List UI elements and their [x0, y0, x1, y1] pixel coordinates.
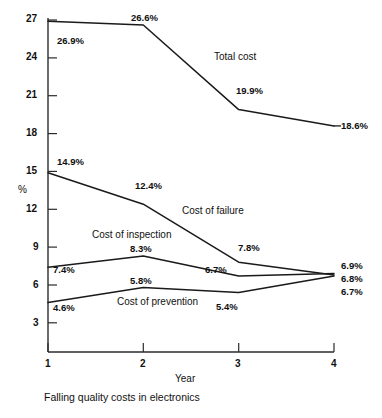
point-label-5-8: 5.8% [130, 276, 152, 286]
y-tick-label-18: 18 [26, 128, 37, 138]
point-label-18-6: 18.6% [341, 121, 368, 131]
x-axis-title: Year [175, 374, 195, 384]
point-label-6-7-year4: 6.7% [341, 287, 363, 297]
figure-caption: Falling quality costs in electronics [44, 392, 200, 403]
series-label-cost-of-failure: Cost of failure [182, 206, 244, 216]
point-label-7-8: 7.8% [238, 243, 260, 253]
series-label-total-cost: Total cost [214, 52, 256, 62]
x-tick-label-3: 3 [235, 359, 241, 369]
point-label-26-9: 26.9% [57, 36, 84, 46]
x-tick-label-1: 1 [45, 359, 51, 369]
y-tick-label-24: 24 [26, 52, 37, 62]
y-tick-label-12: 12 [26, 204, 37, 214]
point-label-14-9: 14.9% [57, 157, 84, 167]
x-tick-label-2: 2 [140, 359, 146, 369]
point-label-5-4: 5.4% [216, 302, 238, 312]
series-label-cost-of-prevention: Cost of prevention [117, 297, 198, 307]
y-tick-label-27: 27 [26, 14, 37, 24]
point-label-12-4: 12.4% [135, 181, 162, 191]
series-line-cost-of-inspection [48, 256, 334, 276]
chart-figure: 27 24 21 18 15 12 9 6 3 % 1 2 3 4 Year 2… [0, 0, 382, 418]
y-axis-ticks [48, 20, 57, 323]
point-label-6-9: 6.9% [341, 261, 363, 271]
point-label-19-9: 19.9% [236, 86, 263, 96]
y-tick-label-9: 9 [33, 242, 39, 252]
x-axis-ticks [48, 343, 334, 352]
y-axis-title: % [18, 185, 27, 195]
y-tick-label-3: 3 [33, 318, 39, 328]
series-line-total-cost [48, 21, 334, 126]
point-label-8-3: 8.3% [130, 244, 152, 254]
point-label-6-8: 6.8% [341, 274, 363, 284]
y-tick-label-6: 6 [33, 280, 39, 290]
x-tick-label-4: 4 [331, 359, 337, 369]
series-line-cost-of-failure [48, 173, 334, 275]
y-tick-label-21: 21 [26, 90, 37, 100]
point-label-6-7-year3: 6.7% [205, 265, 227, 275]
y-tick-label-15: 15 [26, 166, 37, 176]
point-label-26-6: 26.6% [131, 13, 158, 23]
point-label-4-6: 4.6% [53, 303, 75, 313]
point-label-7-4: 7.4% [53, 265, 75, 275]
series-label-cost-of-inspection: Cost of inspection [92, 230, 172, 240]
